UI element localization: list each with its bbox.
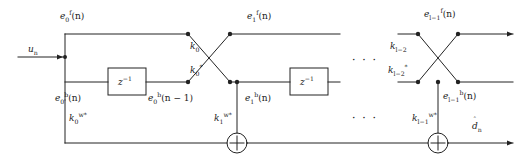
node-input-junction xyxy=(63,55,67,59)
node-last-bottom-left xyxy=(416,80,420,84)
ellipsis-backward: · · · xyxy=(352,112,377,125)
label-ladder-1: k1w* xyxy=(214,112,232,125)
ellipsis-forward: · · · xyxy=(352,54,377,67)
delay-block-0-label: z−1 xyxy=(118,76,132,87)
label-ladder-0: k0w* xyxy=(69,112,87,125)
label-backward-stage0-delayed: e0b(n − 1) xyxy=(148,92,193,105)
label-reflection-down-last: kl−2 xyxy=(390,42,407,53)
node-last-bottom-right xyxy=(456,80,460,84)
label-reflection-down-0: k0 xyxy=(190,42,199,53)
summer-0-symbol: + xyxy=(233,137,242,148)
label-forward-stage1: e1f(n) xyxy=(247,10,271,23)
label-backward-last: el−1b(n) xyxy=(443,90,476,103)
label-backward-stage0: e0b(n) xyxy=(55,92,81,105)
node-last-top-left xyxy=(416,32,420,36)
output-hat-accent: ˆ xyxy=(473,117,477,124)
label-ladder-last: kl−1w* xyxy=(412,112,437,125)
node-stage0-bottom-right xyxy=(228,80,232,84)
label-forward-stage0: e0f(n) xyxy=(60,10,84,23)
node-stage0-top-left xyxy=(186,32,190,36)
label-output: ˆ dn xyxy=(472,122,482,133)
node-ladder-tap-1 xyxy=(235,80,239,84)
label-reflection-up-0: k0* xyxy=(190,64,203,77)
label-forward-last: el−1f(n) xyxy=(424,8,456,21)
label-input: un xyxy=(28,45,38,56)
node-ladder-tap-last xyxy=(436,80,440,84)
label-backward-stage1: e1b(n) xyxy=(245,92,271,105)
diagram-canvas xyxy=(0,0,523,161)
delay-block-1-label: z−1 xyxy=(300,76,314,87)
node-stage0-bottom-left xyxy=(186,80,190,84)
summer-1-symbol: + xyxy=(434,137,443,148)
lattice-ladder-filter-diagram: e0f(n) un e1f(n) el−1f(n) e0b(n) e0b(n −… xyxy=(0,0,523,161)
label-reflection-up-last: kl−2* xyxy=(388,64,408,77)
node-last-top-right xyxy=(456,32,460,36)
node-stage0-top-right xyxy=(228,32,232,36)
